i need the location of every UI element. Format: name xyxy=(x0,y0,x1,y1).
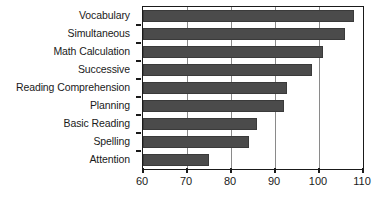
y-axis-tick xyxy=(136,132,141,134)
y-axis-category-labels: VocabularySimultaneousMath CalculationSu… xyxy=(0,6,130,168)
x-axis-tick-70 xyxy=(186,168,188,173)
bar xyxy=(143,154,209,166)
bar xyxy=(143,118,257,130)
y-axis-tick xyxy=(136,114,141,116)
bar xyxy=(143,82,287,94)
x-axis-label-70: 70 xyxy=(166,175,206,188)
y-axis-label: Basic Reading xyxy=(0,117,130,129)
bar-chart: VocabularySimultaneousMath CalculationSu… xyxy=(0,0,385,202)
y-axis-tick xyxy=(136,60,141,62)
plot-area xyxy=(142,6,364,170)
y-axis-label: Reading Comprehension xyxy=(0,81,130,93)
x-axis-tick-100 xyxy=(318,168,320,173)
y-axis-label: Vocabulary xyxy=(0,9,130,21)
bar xyxy=(143,10,354,22)
bar xyxy=(143,64,312,76)
x-axis-label-100: 100 xyxy=(298,175,338,188)
y-axis-label: Simultaneous xyxy=(0,27,130,39)
y-axis-label: Successive xyxy=(0,63,130,75)
x-axis-tick-60 xyxy=(142,168,144,173)
bar xyxy=(143,136,249,148)
y-axis-label: Attention xyxy=(0,153,130,165)
bar xyxy=(143,46,323,58)
y-axis-label: Spelling xyxy=(0,135,130,147)
x-axis-label-60: 60 xyxy=(122,175,162,188)
y-axis-label: Math Calculation xyxy=(0,45,130,57)
x-axis-tick-110 xyxy=(362,168,364,173)
y-axis-tick xyxy=(136,24,141,26)
x-axis-tick-80 xyxy=(230,168,232,173)
plot-inner xyxy=(143,7,363,169)
y-axis-tick xyxy=(136,78,141,80)
y-axis-tick xyxy=(136,150,141,152)
bar xyxy=(143,28,345,40)
x-axis-tick-90 xyxy=(274,168,276,173)
x-axis-label-90: 90 xyxy=(254,175,294,188)
y-axis-label: Planning xyxy=(0,99,130,111)
x-axis-label-110: 110 xyxy=(342,175,382,188)
x-axis-label-80: 80 xyxy=(210,175,250,188)
y-axis-tick xyxy=(136,42,141,44)
bar xyxy=(143,100,284,112)
y-axis-tick xyxy=(136,96,141,98)
